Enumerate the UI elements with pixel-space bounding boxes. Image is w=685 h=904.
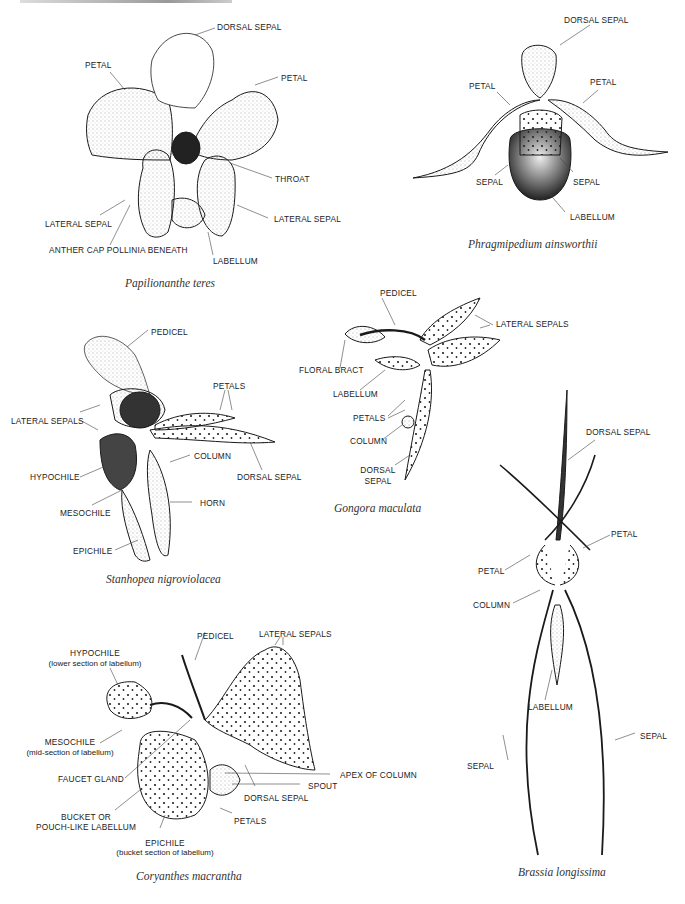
caption-stanhopea: Stanhopea nigroviolacea bbox=[106, 573, 221, 585]
label-petal-left: PETAL bbox=[85, 60, 112, 70]
label-epichile: EPICHILE bbox=[120, 838, 210, 848]
brassia-drawing bbox=[500, 390, 604, 855]
label-petals: PETALS bbox=[353, 413, 385, 423]
label-horn: HORN bbox=[200, 498, 225, 508]
label-floral-bract: FLORAL BRACT bbox=[299, 365, 364, 375]
label-bucket-or: BUCKET OR bbox=[36, 812, 136, 822]
orchid-illustrations bbox=[0, 0, 685, 904]
label-sepal: SEPAL bbox=[360, 476, 396, 486]
label-lateral-sepals: LATERAL SEPALS bbox=[11, 416, 84, 426]
label-sepal-right: SEPAL bbox=[573, 177, 600, 187]
label-sepal-right: SEPAL bbox=[640, 731, 667, 741]
label-petals: PETALS bbox=[234, 816, 266, 826]
label-petals: PETALS bbox=[213, 381, 245, 391]
label-throat: THROAT bbox=[275, 174, 310, 184]
label-labellum: LABELLUM bbox=[213, 256, 258, 266]
caption-coryanthes: Coryanthes macrantha bbox=[136, 870, 242, 882]
label-mesochile-note: (mid-section of labellum) bbox=[20, 748, 120, 758]
label-column: COLUMN bbox=[473, 600, 510, 610]
label-epichile: EPICHILE bbox=[73, 546, 112, 556]
label-lateral-sepal-right: LATERAL SEPAL bbox=[274, 214, 341, 224]
label-pedicel: PEDICEL bbox=[151, 327, 188, 337]
label-column: COLUMN bbox=[350, 436, 387, 446]
label-dorsal-sepal: DORSAL SEPAL bbox=[217, 22, 282, 32]
label-apex-of-column: APEX OF COLUMN bbox=[340, 770, 417, 780]
label-labellum: LABELLUM bbox=[528, 702, 573, 712]
label-faucet-gland: FAUCET GLAND bbox=[58, 774, 124, 784]
label-hypochile-note: (lower section of labellum) bbox=[45, 659, 145, 669]
phragmipedium-drawing bbox=[413, 45, 668, 200]
label-pedicel: PEDICEL bbox=[380, 288, 417, 298]
label-mesochile: MESOCHILE bbox=[30, 737, 110, 747]
label-labellum: LABELLUM bbox=[333, 389, 378, 399]
label-petal-left: PETAL bbox=[469, 81, 496, 91]
label-labellum: LABELLUM bbox=[570, 212, 615, 222]
label-lateral-sepals: LATERAL SEPALS bbox=[259, 629, 332, 639]
label-petal-right: PETAL bbox=[611, 529, 638, 539]
caption-papilionanthe: Papilionanthe teres bbox=[125, 277, 215, 289]
label-hypochile: HYPOCHILE bbox=[30, 472, 80, 482]
label-column: COLUMN bbox=[194, 451, 231, 461]
label-petal-left: PETAL bbox=[478, 566, 505, 576]
label-pedicel: PEDICEL bbox=[197, 631, 234, 641]
label-dorsal-sepal: DORSAL SEPAL bbox=[244, 793, 309, 803]
stanhopea-drawing bbox=[84, 336, 275, 561]
label-dorsal: DORSAL bbox=[360, 465, 396, 475]
label-pouch-like-labellum: POUCH-LIKE LABELLUM bbox=[36, 822, 136, 832]
label-lateral-sepal-left: LATERAL SEPAL bbox=[45, 219, 112, 229]
caption-gongora: Gongora maculata bbox=[334, 502, 421, 514]
label-dorsal-sepal: DORSAL SEPAL bbox=[564, 15, 629, 25]
papilionanthe-drawing bbox=[87, 33, 278, 237]
label-anther-cap: ANTHER CAP POLLINIA BENEATH bbox=[49, 245, 188, 255]
caption-phragmipedium: Phragmipedium ainsworthii bbox=[468, 238, 597, 250]
label-petal-right: PETAL bbox=[281, 73, 308, 83]
label-dorsal-sepal: DORSAL SEPAL bbox=[586, 427, 651, 437]
label-spout: SPOUT bbox=[308, 781, 338, 791]
label-sepal-left: SEPAL bbox=[467, 761, 494, 771]
caption-brassia: Brassia longissima bbox=[518, 866, 606, 878]
label-dorsal-sepal: DORSAL SEPAL bbox=[237, 472, 302, 482]
label-sepal-left: SEPAL bbox=[476, 177, 503, 187]
label-hypochile: HYPOCHILE bbox=[45, 648, 145, 658]
label-mesochile: MESOCHILE bbox=[60, 508, 111, 518]
label-epichile-note: (bucket section of labellum) bbox=[105, 848, 225, 858]
label-petal-right: PETAL bbox=[590, 77, 617, 87]
label-lateral-sepals: LATERAL SEPALS bbox=[496, 319, 569, 329]
